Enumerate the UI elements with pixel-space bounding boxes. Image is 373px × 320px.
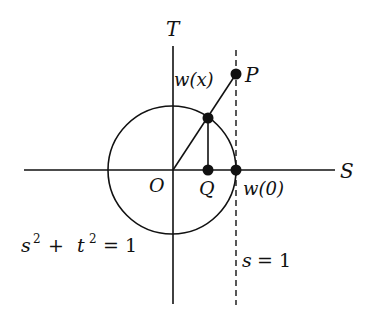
point-p — [231, 69, 242, 80]
point-w-x — [203, 113, 214, 124]
svg-text:+: + — [48, 234, 64, 256]
line-equation: s = 1 — [242, 249, 291, 271]
point-w-0 — [231, 165, 242, 176]
svg-text:= 1: = 1 — [257, 249, 291, 271]
svg-text:t: t — [77, 234, 85, 256]
origin-label: O — [149, 174, 165, 196]
circle-equation: s 2 + t 2 = 1 — [21, 232, 137, 256]
svg-text:s: s — [21, 234, 31, 256]
svg-text:= 1: = 1 — [103, 234, 137, 256]
point-p-label: P — [244, 63, 259, 87]
s-axis-label: S — [340, 159, 354, 183]
point-w0-label: w(0) — [243, 178, 284, 199]
svg-text:2: 2 — [89, 232, 97, 246]
t-axis-label: T — [166, 17, 181, 41]
point-q-label: Q — [199, 177, 215, 199]
point-q — [203, 165, 214, 176]
svg-text:2: 2 — [33, 232, 41, 246]
point-wx-label: w(x) — [174, 69, 214, 90]
unit-circle-diagram: T S O Q w(0) w(x) P s 2 + t 2 = 1 s = 1 — [0, 0, 373, 320]
svg-text:s: s — [242, 249, 252, 271]
